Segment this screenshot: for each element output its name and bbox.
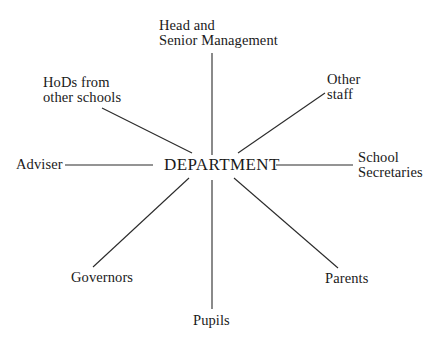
node-head-line-1: Head and [159, 18, 278, 33]
node-head-and-senior-management: Head and Senior Management [159, 18, 278, 48]
edge-governors [93, 178, 189, 267]
node-adviser-line-1: Adviser [16, 157, 63, 172]
node-other-staff-line-1: Other [327, 72, 361, 87]
node-head-line-2: Senior Management [159, 33, 278, 48]
edge-hods [102, 108, 192, 153]
edge-parents [234, 178, 338, 268]
node-hods-line-1: HoDs from [43, 75, 121, 90]
node-adviser: Adviser [16, 157, 63, 172]
node-secretaries-line-1: School [358, 150, 423, 165]
node-pupils: Pupils [193, 313, 230, 328]
department-relationships-diagram: DEPARTMENT Head and Senior Management Ho… [0, 0, 437, 339]
center-node-department: DEPARTMENT [164, 156, 280, 174]
node-governors: Governors [71, 270, 133, 285]
node-parents-line-1: Parents [325, 271, 368, 286]
node-hods-line-2: other schools [43, 90, 121, 105]
node-hods-from-other-schools: HoDs from other schools [43, 75, 121, 105]
node-parents: Parents [325, 271, 368, 286]
node-secretaries-line-2: Secretaries [358, 165, 423, 180]
node-governors-line-1: Governors [71, 270, 133, 285]
node-other-staff-line-2: staff [327, 87, 361, 102]
node-other-staff: Other staff [327, 72, 361, 102]
node-pupils-line-1: Pupils [193, 313, 230, 328]
node-school-secretaries: School Secretaries [358, 150, 423, 180]
edge-other-staff [238, 93, 325, 153]
